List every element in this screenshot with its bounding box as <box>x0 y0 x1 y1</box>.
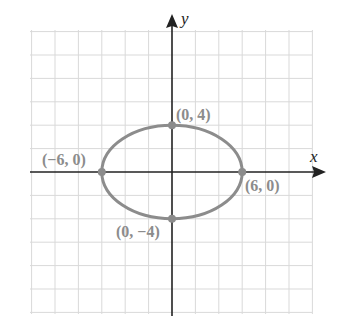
x-axis-label: x <box>310 148 318 165</box>
x-axis-arrow-icon <box>312 166 326 178</box>
vertex-point <box>168 121 176 129</box>
vertex-point <box>98 168 106 176</box>
point-label-right: (6, 0) <box>245 178 280 194</box>
y-axis-label: y <box>181 10 189 27</box>
vertex-point <box>168 215 176 223</box>
point-label-left: (−6, 0) <box>42 152 86 168</box>
vertex-point <box>238 168 246 176</box>
point-label-bottom: (0, −4) <box>116 224 160 240</box>
y-axis-arrow-icon <box>166 14 178 28</box>
point-label-top: (0, 4) <box>176 107 211 123</box>
